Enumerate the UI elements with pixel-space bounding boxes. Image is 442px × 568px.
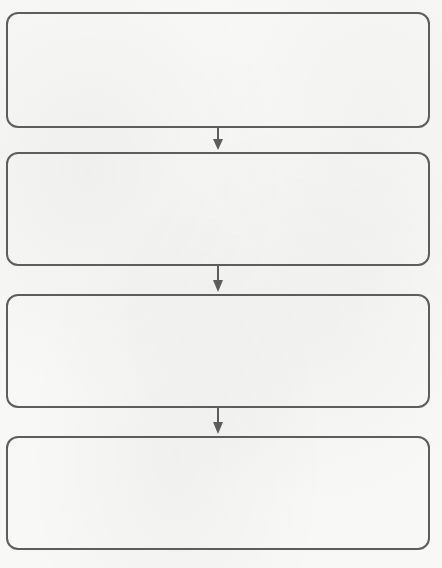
step-2-text — [22, 164, 414, 254]
step-1-text — [22, 24, 414, 116]
step-3-text — [22, 306, 414, 396]
arrow-down-icon — [210, 266, 226, 294]
flowchart-step-1 — [6, 12, 430, 128]
connector-arrow-3 — [210, 408, 226, 436]
step-4-text — [22, 448, 414, 538]
flowchart-step-3 — [6, 294, 430, 408]
connector-arrow-2 — [210, 266, 226, 294]
flowchart-step-4 — [6, 436, 430, 550]
arrow-down-icon — [210, 128, 226, 152]
flowchart-step-2 — [6, 152, 430, 266]
connector-arrow-1 — [210, 128, 226, 152]
arrow-down-icon — [210, 408, 226, 436]
